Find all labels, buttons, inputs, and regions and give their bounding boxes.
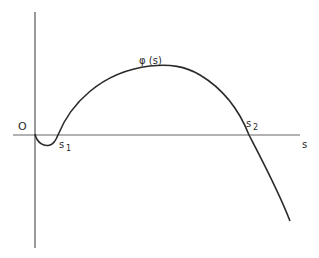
svg-text:1: 1: [66, 144, 71, 153]
phi-graph: O φ (s) s s 1 s 2: [0, 0, 319, 258]
origin-label: O: [18, 120, 27, 133]
x-axis-label: s: [302, 139, 307, 150]
svg-text:s: s: [246, 118, 251, 129]
phi-curve: [35, 65, 290, 221]
svg-text:2: 2: [253, 123, 258, 132]
svg-text:s: s: [59, 139, 64, 150]
function-label: φ (s): [139, 55, 162, 66]
root-s2-label: s 2: [246, 118, 258, 132]
root-s1-label: s 1: [59, 139, 71, 153]
